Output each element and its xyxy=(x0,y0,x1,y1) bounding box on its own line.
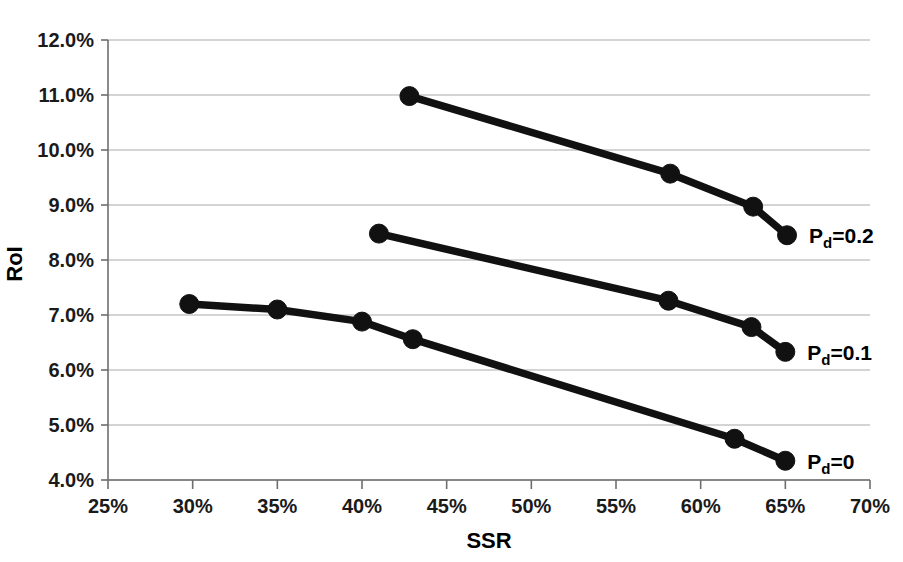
x-tick-label: 40% xyxy=(342,495,382,517)
data-point-marker xyxy=(725,429,744,448)
series-label: Pd=0 xyxy=(807,450,854,477)
y-tick-label: 4.0% xyxy=(48,469,94,491)
data-point-marker xyxy=(776,451,795,470)
data-point-marker xyxy=(353,312,372,331)
y-tick-label: 7.0% xyxy=(48,304,94,326)
x-tick-label: 30% xyxy=(173,495,213,517)
series-label: Pd=0.1 xyxy=(807,341,872,368)
data-point-marker xyxy=(369,224,388,243)
chart-background xyxy=(0,0,903,562)
data-point-marker xyxy=(180,295,199,314)
x-tick-label: 25% xyxy=(88,495,128,517)
y-axis-title: RoI xyxy=(2,246,27,281)
x-tick-label: 55% xyxy=(596,495,636,517)
data-point-marker xyxy=(659,291,678,310)
data-point-marker xyxy=(268,300,287,319)
chart-figure: 4.0%5.0%6.0%7.0%8.0%9.0%10.0%11.0%12.0% … xyxy=(0,0,903,562)
data-point-marker xyxy=(661,164,680,183)
x-tick-label: 70% xyxy=(850,495,890,517)
x-tick-label: 65% xyxy=(765,495,805,517)
line-chart-canvas: 4.0%5.0%6.0%7.0%8.0%9.0%10.0%11.0%12.0% … xyxy=(0,0,903,562)
x-tick-label: 50% xyxy=(511,495,551,517)
x-axis-title: SSR xyxy=(466,528,511,553)
data-point-marker xyxy=(742,318,761,337)
y-tick-label: 6.0% xyxy=(48,359,94,381)
y-tick-label: 11.0% xyxy=(38,84,94,106)
data-point-marker xyxy=(778,226,797,245)
x-tick-label: 35% xyxy=(257,495,297,517)
y-tick-label: 10.0% xyxy=(37,139,94,161)
y-tick-label: 5.0% xyxy=(48,414,94,436)
x-tick-label: 60% xyxy=(681,495,721,517)
data-point-marker xyxy=(744,197,763,216)
y-tick-label: 8.0% xyxy=(48,249,94,271)
series-label: Pd=0.2 xyxy=(809,224,874,251)
data-point-marker xyxy=(400,87,419,106)
y-tick-label: 12.0% xyxy=(37,29,94,51)
data-point-marker xyxy=(403,330,422,349)
y-tick-label: 9.0% xyxy=(48,194,94,216)
x-tick-label: 45% xyxy=(427,495,467,517)
data-point-marker xyxy=(776,342,795,361)
